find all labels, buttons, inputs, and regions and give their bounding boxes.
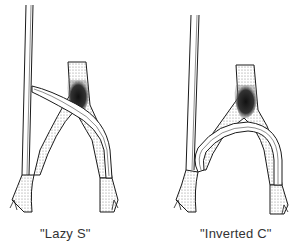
right-femoral-stump	[100, 178, 118, 212]
caption-inverted-c: "Inverted C"	[200, 226, 272, 241]
panel-lazy-s	[0, 0, 148, 249]
donor-vessel	[22, 5, 33, 175]
donor-vessel	[186, 15, 199, 170]
left-femoral-stump	[12, 175, 34, 212]
panel-inverted-c	[148, 0, 296, 249]
inverted-c-illustration	[148, 0, 296, 225]
lazy-s-illustration	[0, 0, 148, 225]
aortic-trunk	[34, 62, 112, 178]
right-femoral-stump	[270, 185, 288, 214]
caption-lazy-s: "Lazy S"	[40, 226, 91, 241]
